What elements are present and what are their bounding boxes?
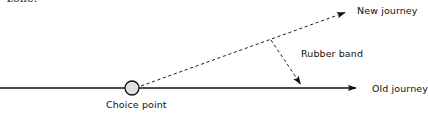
label-choice-point: Choice point [106, 99, 167, 110]
label-new-journey: New journey [357, 5, 418, 16]
rubber-band-diagram [0, 0, 428, 115]
label-old-journey: Old journey [372, 83, 428, 94]
rubber-band-line [271, 40, 301, 84]
choice-point-circle [125, 81, 139, 95]
label-rubber-band: Rubber band [301, 48, 363, 59]
figure-root: zone. New journey Rubber band Old journe… [0, 0, 428, 115]
